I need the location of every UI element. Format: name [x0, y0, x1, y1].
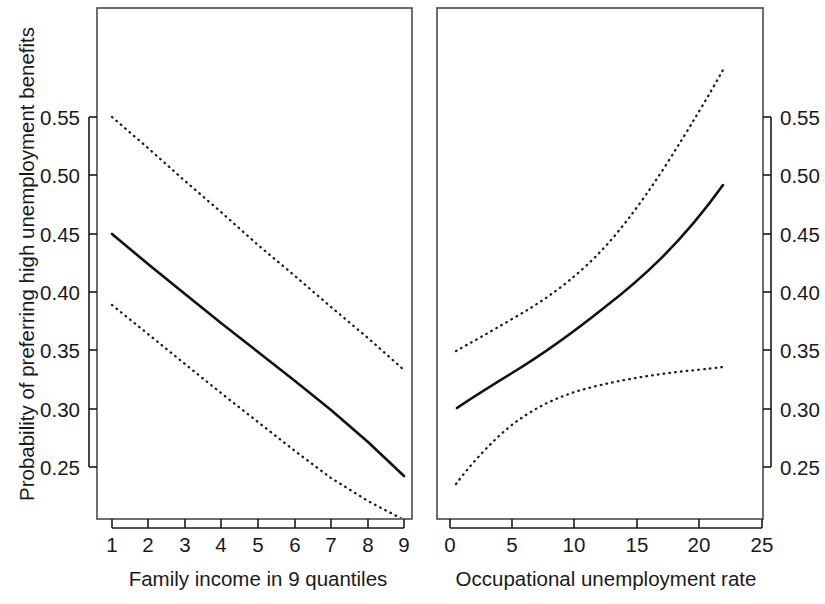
figure-container: Probability of preferring high unemploym… [0, 0, 825, 604]
left-x-axis-title: Family income in 9 quantiles [129, 567, 388, 590]
right-x-tick-label-3: 15 [626, 533, 649, 556]
right-y-tick-label-5: 0.30 [780, 398, 820, 421]
left-x-tick-label-5: 6 [289, 533, 300, 556]
right-y-tick-label-1: 0.50 [780, 164, 820, 187]
left-y-tick-label-1: 0.50 [40, 164, 80, 187]
right-fit-curve [457, 185, 723, 408]
left-x-tick-label-6: 7 [325, 533, 336, 556]
right-x-tick-label-4: 20 [688, 533, 711, 556]
left-y-tick-label-6: 0.25 [40, 456, 80, 479]
left-fit-curve [112, 234, 404, 476]
left-panel-plot-area [112, 117, 404, 520]
shared-y-axis-title: Probability of preferring high unemploym… [15, 27, 38, 501]
right-x-axis-title: Occupational unemployment rate [456, 567, 757, 590]
left-y-tick-label-3: 0.40 [40, 281, 80, 304]
right-lower-ci-curve [456, 367, 723, 484]
left-y-tick-label-2: 0.45 [40, 223, 80, 246]
left-x-tick-label-4: 5 [252, 533, 263, 556]
left-panel: 0.55 0.50 0.45 0.40 0.35 0.30 0.25 [40, 8, 412, 590]
chart-canvas: Probability of preferring high unemploym… [0, 0, 825, 604]
left-panel-x-axis: 1 2 3 4 5 6 7 8 9 [106, 519, 409, 556]
left-y-tick-label-0: 0.55 [40, 106, 80, 129]
left-x-tick-label-7: 8 [362, 533, 373, 556]
left-lower-ci-curve [112, 305, 404, 520]
right-y-tick-label-6: 0.25 [780, 456, 820, 479]
right-y-tick-label-3: 0.40 [780, 281, 820, 304]
y-axis-title-text: Probability of preferring high unemploym… [15, 27, 38, 501]
right-x-tick-label-1: 5 [506, 533, 517, 556]
right-panel-y-axis: 0.55 0.50 0.45 0.40 0.35 0.30 0.25 [763, 106, 820, 479]
right-upper-ci-curve [456, 70, 723, 351]
right-y-tick-label-2: 0.45 [780, 223, 820, 246]
right-y-tick-label-4: 0.35 [780, 339, 820, 362]
left-panel-frame [97, 8, 412, 519]
left-upper-ci-curve [112, 117, 404, 370]
right-x-tick-label-0: 0 [444, 533, 455, 556]
left-x-tick-label-2: 3 [179, 533, 190, 556]
left-y-tick-label-5: 0.30 [40, 398, 80, 421]
right-y-tick-label-0: 0.55 [780, 106, 820, 129]
right-x-tick-label-5: 25 [751, 533, 774, 556]
right-panel-plot-area [456, 70, 723, 484]
left-panel-y-axis: 0.55 0.50 0.45 0.40 0.35 0.30 0.25 [40, 106, 97, 479]
right-x-tick-label-2: 10 [563, 533, 586, 556]
left-x-tick-label-1: 2 [142, 533, 153, 556]
left-x-tick-label-8: 9 [398, 533, 409, 556]
right-panel: 0.55 0.50 0.45 0.40 0.35 0.30 0.25 0 5 1… [437, 8, 820, 590]
left-x-tick-label-0: 1 [106, 533, 117, 556]
left-y-tick-label-4: 0.35 [40, 339, 80, 362]
left-x-tick-label-3: 4 [215, 533, 226, 556]
right-panel-x-axis: 0 5 10 15 20 25 [444, 519, 773, 556]
